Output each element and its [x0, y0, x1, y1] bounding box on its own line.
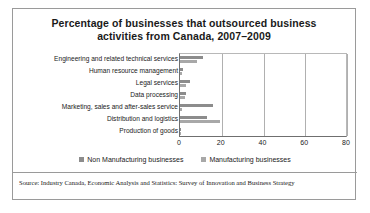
chart-title: Percentage of businesses that outsourced…: [13, 17, 355, 42]
category-label: Production of goods: [13, 127, 178, 135]
source-note: Source: Industry Canada, Economic Analys…: [19, 179, 355, 186]
bar-group: [180, 55, 347, 67]
chart-figure: Percentage of businesses that outsourced…: [12, 8, 356, 200]
bar-group: [180, 79, 347, 91]
bar: [180, 80, 190, 83]
bar: [180, 84, 186, 87]
bar: [180, 68, 183, 71]
category-label: Human resource management: [13, 67, 178, 75]
value-axis-ticks: 020406080: [179, 138, 347, 150]
gridline: [347, 54, 348, 136]
chart-title-line-1: Percentage of businesses that outsourced…: [13, 17, 355, 30]
legend-label: Manufacturing businesses: [209, 156, 290, 163]
footer-divider: [13, 172, 357, 173]
bar-group: [180, 67, 347, 79]
category-axis-labels: Engineering and related technical servic…: [13, 53, 178, 137]
legend-item[interactable]: Manufacturing businesses: [201, 156, 290, 163]
category-label: Distribution and logistics: [13, 115, 178, 123]
bar: [180, 72, 182, 75]
plot-area: [179, 53, 347, 137]
bar: [180, 128, 181, 131]
value-axis-tick-label: 40: [250, 139, 276, 146]
category-label: Data processing: [13, 91, 178, 99]
legend-item[interactable]: Non Manufacturing businesses: [79, 156, 183, 163]
value-axis-tick-label: 0: [166, 139, 192, 146]
plot-wrapper: Engineering and related technical servic…: [13, 53, 357, 149]
category-label: Legal services: [13, 79, 178, 87]
bar: [180, 60, 197, 63]
bar-group: [180, 115, 347, 127]
value-axis-tick-label: 20: [208, 139, 234, 146]
bar: [180, 56, 203, 59]
bar: [180, 132, 181, 135]
bar: [180, 120, 220, 123]
value-axis-tick-label: 60: [291, 139, 317, 146]
category-label: Engineering and related technical servic…: [13, 55, 178, 63]
bar-group: [180, 91, 347, 103]
bar: [180, 104, 213, 107]
bar: [180, 96, 185, 99]
legend-swatch-icon: [201, 157, 206, 162]
legend-swatch-icon: [79, 157, 84, 162]
legend-label: Non Manufacturing businesses: [87, 156, 183, 163]
bar-group: [180, 103, 347, 115]
value-axis-tick-label: 80: [333, 139, 359, 146]
bar: [180, 108, 182, 111]
chart-title-line-2: activities from Canada, 2007–2009: [13, 30, 355, 43]
chart-legend: Non Manufacturing businessesManufacturin…: [13, 156, 357, 163]
bar: [180, 92, 186, 95]
bar: [180, 116, 207, 119]
category-label: Marketing, sales and after-sales service: [13, 103, 178, 111]
